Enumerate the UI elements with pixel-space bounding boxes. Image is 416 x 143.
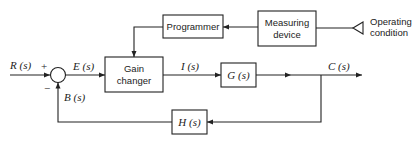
sensor-triangle-icon [353, 22, 363, 34]
gain-changer-label-1: Gain [124, 63, 144, 74]
arrowhead-icon [132, 51, 137, 57]
gain-changer-label-2: changer [117, 75, 151, 86]
summing-junction [51, 68, 66, 83]
programmer-label: Programmer [167, 21, 220, 32]
arrowhead-icon [285, 73, 291, 78]
arrowhead-icon [44, 73, 50, 78]
block-diagram: R (s) + − E (s) Gain changer I (s) G (s)… [0, 0, 416, 143]
intermediate-signal-label: I (s) [180, 60, 199, 73]
arrowhead-icon [223, 25, 229, 30]
feedback-signal-label: B (s) [64, 91, 85, 104]
arrowhead-icon [56, 83, 61, 89]
arrowhead-icon [99, 73, 105, 78]
input-signal-label: R (s) [9, 59, 31, 72]
arrowhead-icon [215, 73, 221, 78]
programmer-to-gain-line [134, 27, 163, 57]
minus-sign: − [44, 82, 50, 94]
arrowhead-icon [207, 120, 213, 125]
output-signal-label: C (s) [328, 60, 350, 73]
feedback-block-label: H (s) [177, 116, 201, 129]
plus-sign: + [41, 60, 47, 72]
plant-label: G (s) [227, 69, 250, 82]
arrowhead-icon [356, 73, 362, 78]
operating-condition-label-1: Operating [370, 16, 412, 27]
operating-condition-label-2: condition [370, 27, 408, 38]
error-signal-label: E (s) [72, 60, 94, 73]
measuring-device-label-2: device [273, 29, 300, 40]
measuring-device-label-1: Measuring [265, 17, 309, 28]
